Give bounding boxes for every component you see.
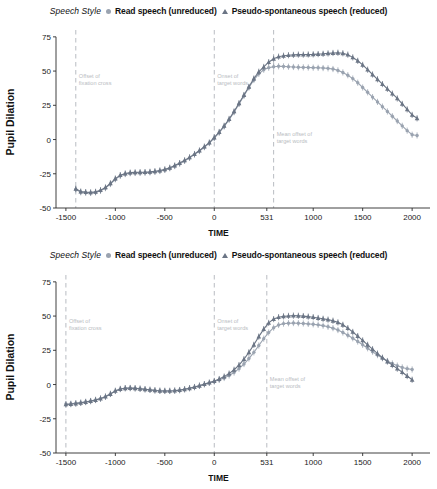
circle-marker xyxy=(386,110,389,113)
x-tick-label: -1500 xyxy=(56,213,77,222)
circle-marker xyxy=(410,368,413,371)
circle-marker xyxy=(336,69,339,72)
x-tick-label: -1000 xyxy=(105,458,126,467)
circle-marker xyxy=(371,95,374,98)
triangle-marker xyxy=(266,60,271,64)
circle-marker xyxy=(351,77,354,80)
circle-marker xyxy=(282,65,285,68)
y-tick-label: 25 xyxy=(42,346,51,355)
plot-area-bottom: Offset offixation crossOnset oftarget wo… xyxy=(0,244,437,489)
circle-marker xyxy=(326,67,329,70)
circle-marker xyxy=(277,323,280,326)
y-tick-label: 75 xyxy=(42,278,51,287)
chart-panel-top: Speech Style Read speech (unreduced) Pse… xyxy=(0,0,437,244)
triangle-marker xyxy=(355,58,360,62)
x-tick-label: -500 xyxy=(157,213,174,222)
reference-line-annotation: fixation cross xyxy=(79,80,112,86)
plot-area-top: Offset offixation crossOnset oftarget wo… xyxy=(0,0,437,244)
series-line xyxy=(76,53,417,193)
circle-marker xyxy=(401,124,404,127)
y-tick-label: 0 xyxy=(47,136,52,145)
circle-marker xyxy=(297,66,300,69)
circle-marker xyxy=(336,328,339,331)
circle-marker xyxy=(351,337,354,340)
circle-marker xyxy=(242,362,245,365)
circle-marker xyxy=(302,322,305,325)
circle-marker xyxy=(287,65,290,68)
circle-marker xyxy=(326,325,329,328)
x-tick-label: 0 xyxy=(212,458,217,467)
reference-line-annotation: target words xyxy=(270,383,301,389)
pupil-dilation-figure: Speech Style Read speech (unreduced) Pse… xyxy=(0,0,437,489)
circle-marker xyxy=(307,66,310,69)
reference-line-annotation: Mean offset of xyxy=(270,376,306,382)
reference-line-annotation: Offset of xyxy=(69,318,90,324)
circle-marker xyxy=(415,134,418,137)
x-tick-label: -1000 xyxy=(105,213,126,222)
circle-marker xyxy=(405,367,408,370)
circle-marker xyxy=(321,66,324,69)
circle-marker xyxy=(262,337,265,340)
data-series xyxy=(73,50,419,196)
triangle-marker xyxy=(415,116,420,120)
circle-marker xyxy=(356,340,359,343)
triangle-marker xyxy=(73,186,78,190)
circle-marker xyxy=(346,73,349,76)
chart-panel-bottom: Speech Style Read speech (unreduced) Pse… xyxy=(0,244,437,489)
x-tick-label: 1500 xyxy=(354,458,372,467)
circle-marker xyxy=(381,105,384,108)
circle-marker xyxy=(331,67,334,70)
triangle-marker xyxy=(346,326,351,330)
triangle-marker xyxy=(400,370,405,374)
y-tick-label: -25 xyxy=(39,415,51,424)
circle-marker xyxy=(331,326,334,329)
circle-marker xyxy=(247,357,250,360)
circle-marker xyxy=(376,100,379,103)
x-tick-label: 2000 xyxy=(403,458,421,467)
x-tick-label: 531 xyxy=(260,213,274,222)
y-tick-label: 25 xyxy=(42,101,51,110)
y-tick-label: 0 xyxy=(47,381,52,390)
circle-marker xyxy=(361,343,364,346)
circle-marker xyxy=(267,331,270,334)
y-tick-label: 50 xyxy=(42,312,51,321)
circle-marker xyxy=(316,66,319,69)
circle-marker xyxy=(297,321,300,324)
reference-line-annotation: Onset of xyxy=(217,73,239,79)
circle-marker xyxy=(302,66,305,69)
circle-marker xyxy=(366,91,369,94)
circle-marker xyxy=(346,334,349,337)
circle-marker xyxy=(401,366,404,369)
circle-marker xyxy=(341,331,344,334)
circle-marker xyxy=(272,326,275,329)
circle-marker xyxy=(292,65,295,68)
y-tick-label: 75 xyxy=(42,33,51,42)
circle-marker xyxy=(361,86,364,89)
circle-marker xyxy=(252,351,255,354)
circle-marker xyxy=(292,321,295,324)
x-tick-label: 1000 xyxy=(304,458,322,467)
reference-line-annotation: target words xyxy=(217,325,248,331)
circle-marker xyxy=(341,71,344,74)
circle-marker xyxy=(410,133,413,136)
circle-marker xyxy=(257,344,260,347)
y-tick-label: -50 xyxy=(39,204,51,213)
x-tick-label: 531 xyxy=(260,458,274,467)
circle-marker xyxy=(272,65,275,68)
circle-marker xyxy=(391,115,394,118)
triangle-marker xyxy=(222,374,227,378)
x-tick-label: -500 xyxy=(157,458,174,467)
circle-marker xyxy=(312,66,315,69)
reference-line-annotation: target words xyxy=(277,138,308,144)
circle-marker xyxy=(396,119,399,122)
y-tick-label: -50 xyxy=(39,449,51,458)
circle-marker xyxy=(267,66,270,69)
reference-line-annotation: target words xyxy=(217,80,248,86)
y-tick-label: 50 xyxy=(42,67,51,76)
circle-marker xyxy=(321,324,324,327)
x-axis-label-top: TIME xyxy=(0,228,437,238)
x-axis-label-bottom: TIME xyxy=(0,473,437,483)
circle-marker xyxy=(312,323,315,326)
circle-marker xyxy=(316,323,319,326)
reference-line-annotation: Mean offset of xyxy=(277,131,313,137)
